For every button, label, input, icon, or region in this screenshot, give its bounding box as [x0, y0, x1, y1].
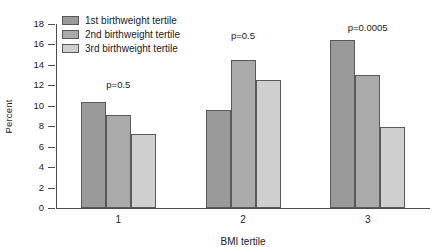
y-axis-tick — [48, 65, 55, 66]
legend-label: 1st birthweight tertile — [85, 15, 177, 26]
y-axis-tick — [48, 167, 55, 168]
bar — [131, 134, 156, 208]
bar — [256, 80, 281, 208]
legend: 1st birthweight tertile2nd birthweight t… — [62, 14, 180, 55]
y-axis-tick — [48, 24, 55, 25]
bar — [330, 40, 355, 208]
y-axis-tick — [48, 126, 55, 127]
bar — [106, 115, 131, 208]
x-axis-tick-label: 1 — [88, 214, 148, 225]
bar — [81, 102, 106, 208]
bar — [355, 75, 380, 208]
legend-item: 1st birthweight tertile — [62, 14, 180, 27]
y-axis-tick-label: 18 — [4, 19, 44, 29]
y-axis-tick — [48, 44, 55, 45]
y-axis-tick — [48, 85, 55, 86]
y-axis-tick-label: 6 — [4, 142, 44, 152]
pvalue-annotation: p=0.5 — [198, 30, 288, 41]
legend-label: 3rd birthweight tertile — [85, 43, 178, 54]
x-axis-tick-label: 2 — [213, 214, 273, 225]
legend-swatch-icon — [62, 30, 79, 39]
bar — [380, 127, 405, 208]
legend-label: 2nd birthweight tertile — [85, 29, 180, 40]
legend-swatch-icon — [62, 44, 79, 53]
y-axis-tick-label: 2 — [4, 183, 44, 193]
bar — [206, 110, 231, 208]
pvalue-annotation: p=0.5 — [73, 79, 163, 90]
y-axis-tick — [48, 188, 55, 189]
x-axis-tick-label: 3 — [338, 214, 398, 225]
legend-item: 2nd birthweight tertile — [62, 28, 180, 41]
y-axis-tick — [48, 208, 55, 209]
y-axis-tick-label: 0 — [4, 203, 44, 213]
y-axis-tick — [48, 147, 55, 148]
y-axis-tick-label: 16 — [4, 39, 44, 49]
x-axis-line — [56, 208, 430, 209]
y-axis-tick — [48, 106, 55, 107]
chart-page: Percent 024681012141618 p=0.5p=0.5p=0.00… — [0, 0, 448, 247]
y-axis-line — [56, 24, 57, 209]
y-axis-tick-label: 10 — [4, 101, 44, 111]
x-axis-title: BMI tertile — [56, 236, 430, 247]
legend-item: 3rd birthweight tertile — [62, 42, 180, 55]
bar — [231, 60, 256, 208]
pvalue-annotation: p=0.0005 — [323, 22, 413, 33]
y-axis-tick-label: 4 — [4, 162, 44, 172]
y-axis-tick-label: 12 — [4, 80, 44, 90]
y-axis-tick-label: 14 — [4, 60, 44, 70]
y-axis-tick-label: 8 — [4, 121, 44, 131]
legend-swatch-icon — [62, 16, 79, 25]
